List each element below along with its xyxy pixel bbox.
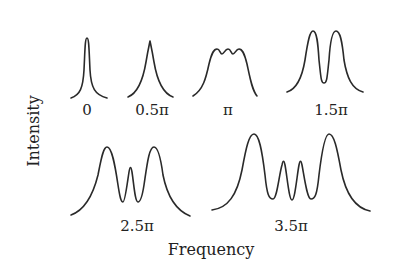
spectrum-curve-3.5pi [212,134,370,211]
panel-label-2.5pi: 2.5π [120,217,154,235]
panel-label-0: 0 [82,101,92,119]
panel-label-pi: π [223,101,233,119]
x-axis-label: Frequency [168,240,255,259]
spectra-figure: 0 0.5π π 1.5π 2.5π 3.5π Frequency Intens… [0,0,395,280]
spectrum-curve-pi [193,49,257,96]
spectrum-curve-2.5pi [71,147,190,216]
spectrum-curve-0 [71,38,107,98]
panel-label-3.5pi: 3.5π [274,217,308,235]
y-axis-label: Intensity [24,95,43,167]
figure-canvas: 0 0.5π π 1.5π 2.5π 3.5π Frequency Intens… [0,0,395,280]
panel-label-1.5pi: 1.5π [314,101,348,119]
spectrum-curve-0.5pi [128,41,173,97]
spectrum-curve-1.5pi [287,31,363,92]
panel-label-0.5pi: 0.5π [135,101,169,119]
